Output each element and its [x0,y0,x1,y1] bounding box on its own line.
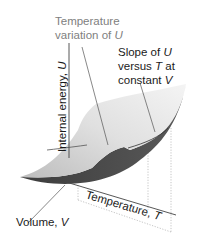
x-axis-label: Temperature, T [84,188,163,222]
slope-label-line1: Slope of U [118,46,172,58]
slope-label-line3: constant V [118,74,174,86]
internal-energy-surface-diagram: Temperature variation of U Slope of U ve… [0,0,199,250]
temperature-variation-label: Temperature [55,15,120,27]
volume-label: Volume, V [16,216,70,228]
slope-label-line2: versus T at [118,60,176,72]
y-axis-label: Internal energy, U [56,61,68,152]
temperature-variation-label-line2: variation of U [55,29,123,41]
